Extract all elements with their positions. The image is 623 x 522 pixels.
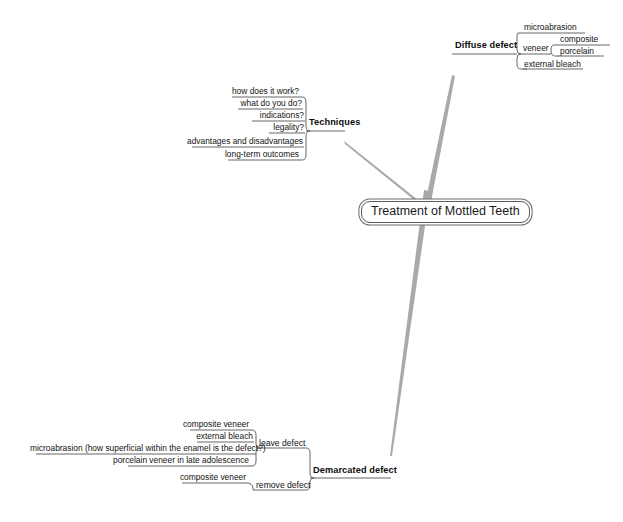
- leaf-leave-external-bleach[interactable]: external bleach: [150, 432, 253, 441]
- leaf-label: microabrasion (how superficial within th…: [30, 443, 266, 453]
- leaf-label: composite veneer: [183, 419, 249, 429]
- leaf-diffuse-veneer[interactable]: veneer: [523, 44, 549, 53]
- leaf-label: what do you do?: [241, 98, 302, 108]
- leaf-label: composite veneer: [180, 472, 246, 482]
- leaf-diffuse-veneer-porcelain[interactable]: porcelain: [560, 47, 594, 56]
- leaf-label: advantages and disadvantages: [187, 136, 303, 146]
- spine-remove-defect: [247, 483, 253, 490]
- leaf-label: veneer: [523, 43, 549, 53]
- leaf-remove-composite-veneer[interactable]: composite veneer: [150, 473, 246, 482]
- leaf-techniques-what-do-you-do[interactable]: what do you do?: [200, 99, 302, 108]
- leaf-leave-porcelain-veneer[interactable]: porcelain veneer in late adolescence: [100, 456, 249, 465]
- node-label: remove defect: [256, 480, 310, 490]
- root-node[interactable]: Treatment of Mottled Teeth: [361, 201, 530, 223]
- leaf-label: indications?: [260, 110, 304, 120]
- leaf-techniques-advantages-disadvantages[interactable]: advantages and disadvantages: [180, 137, 303, 146]
- leaf-label: composite: [560, 34, 598, 44]
- leaf-label: how does it work?: [232, 86, 299, 96]
- root-label: Treatment of Mottled Teeth: [371, 204, 520, 218]
- spine-veneer: [551, 45, 559, 56]
- leaf-label: porcelain: [560, 46, 594, 56]
- leaf-label: external bleach: [524, 59, 581, 69]
- leaf-leave-composite-veneer[interactable]: composite veneer: [150, 420, 249, 429]
- mindmap-canvas: Treatment of Mottled Teeth Diffuse defec…: [0, 0, 623, 522]
- leaf-diffuse-veneer-composite[interactable]: composite: [560, 35, 598, 44]
- leaf-label: long-term outcomes: [225, 149, 299, 159]
- branch-diffuse-defect[interactable]: Diffuse defect: [455, 41, 517, 51]
- branch-line-demarcated: [390, 190, 430, 456]
- leaf-diffuse-microabrasion[interactable]: microabrasion: [524, 23, 577, 32]
- leaf-leave-microabrasion[interactable]: microabrasion (how superficial within th…: [30, 444, 255, 453]
- leaf-techniques-how-does-it-work[interactable]: how does it work?: [200, 87, 299, 96]
- branch-diffuse-defect-label: Diffuse defect: [455, 40, 517, 50]
- leaf-label: microabrasion: [524, 22, 577, 32]
- leaf-techniques-indications[interactable]: indications?: [200, 111, 304, 120]
- branch-demarcated-defect[interactable]: Demarcated defect: [313, 466, 397, 476]
- branch-line-diffuse: [424, 75, 455, 209]
- branch-techniques-label: Techniques: [309, 117, 360, 127]
- branch-techniques[interactable]: Techniques: [309, 118, 360, 128]
- branch-demarcated-defect-label: Demarcated defect: [313, 465, 397, 475]
- leaf-label: porcelain veneer in late adolescence: [113, 455, 249, 465]
- leaf-diffuse-external-bleach[interactable]: external bleach: [524, 60, 581, 69]
- leaf-techniques-long-term-outcomes[interactable]: long-term outcomes: [180, 150, 299, 159]
- leaf-label: external bleach: [196, 431, 253, 441]
- leaf-techniques-legality[interactable]: legality?: [200, 123, 304, 132]
- leaf-label: legality?: [273, 122, 304, 132]
- node-remove-defect[interactable]: remove defect: [256, 481, 310, 490]
